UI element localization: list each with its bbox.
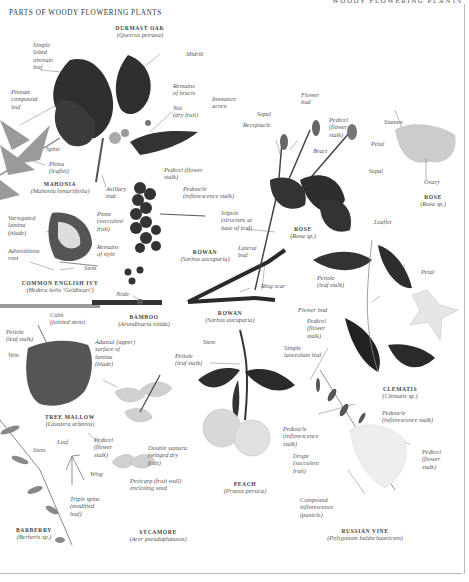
label-pedicel-sycamore: Pedicel (flower stalk): [94, 436, 113, 458]
specimen-russian-vine: RUSSIAN VINE (Polygonum baldschuanicum): [315, 528, 415, 541]
specimen-peach: PEACH (Prunus persica): [210, 481, 280, 494]
label-pinna: Pinna (leaflet): [49, 160, 69, 175]
specimen-scientific: (Sorbus aucuparia): [170, 255, 240, 262]
label-pinnate-compound-leaf: Pinnate compound leaf: [11, 88, 37, 110]
label-immature-acorn: Immature acorn: [212, 95, 236, 110]
label-pericarp: Pericarp (fruit wall) enclosing seed: [130, 477, 181, 492]
label-stem-peach: Stem: [203, 338, 215, 345]
specimen-scientific: (Mahonia lomariifolia): [20, 187, 100, 194]
label-leaf-barberry: Leaf: [57, 438, 68, 445]
specimen-bamboo: BAMBOO (Arundinaria nitida): [104, 314, 184, 327]
label-stamen: Stamen: [384, 118, 403, 125]
specimen-rowan-berries: ROWAN (Sorbus aucuparia): [170, 249, 240, 262]
label-spine: Spine: [46, 145, 60, 152]
label-nut: Nut (dry fruit): [173, 104, 198, 119]
label-adaxial-surface: Adaxial (upper) surface of lamina (blade…: [95, 338, 135, 368]
label-pedicel-vine: Pedicel (flower stalk): [422, 448, 441, 470]
label-remains-of-bracts: Remains of bracts: [173, 82, 195, 97]
label-compound-inflorescence: Compound inflorescence (panicle): [300, 496, 333, 518]
label-pedicel-rose: Pedicel (flower stalk): [329, 116, 348, 138]
specimen-scientific: (Lavatera arborea): [30, 420, 110, 427]
label-leaflet: Leaflet: [374, 218, 392, 225]
label-petal-rose: Petal: [371, 140, 384, 147]
specimen-scientific: (Arundinaria nitida): [104, 320, 184, 327]
specimen-scientific: (Acer pseudoplatanus): [113, 535, 203, 542]
label-axillary-bud: Axillary bud: [106, 185, 126, 200]
label-variegated-lamina: Variegated lamina (blade): [8, 214, 35, 236]
specimen-scientific: (Polygonum baldschuanicum): [315, 534, 415, 541]
label-stipule: Stipule (structure at base of leaf): [221, 209, 252, 231]
label-receptacle: Receptacle: [243, 121, 271, 128]
specimen-scientific: (Quercus petraea): [90, 31, 190, 38]
label-midrib: Midrib: [186, 50, 204, 57]
label-peduncle-vine: Peduncle (inflorescence stalk): [382, 409, 433, 424]
specimen-scientific: (Berberis sp.): [4, 533, 64, 540]
label-pedicel-clematis: Pedicel (flower stalk): [307, 317, 326, 339]
specimen-rose-stem: ROSE (Rosa sp.): [278, 226, 328, 239]
specimen-tree-mallow: TREE MALLOW (Lavatera arborea): [30, 414, 110, 427]
label-peduncle-rowan: Peduncle (inflorescence stalk): [183, 185, 234, 200]
label-pedicel-rowan: Pedicel (flower stalk): [164, 166, 203, 181]
label-node: Node: [116, 290, 129, 297]
label-drupe: Drupe (succulent fruit): [293, 452, 319, 474]
label-simple-lanceolate-leaf: Simple lanceolate leaf: [284, 344, 321, 359]
label-culm: Culm (jointed stem): [50, 311, 85, 326]
label-petiole-mallow: Petiole (leaf stalk): [6, 328, 33, 343]
label-bract: Bract: [313, 147, 327, 154]
specimen-scientific: (Rosa sp.): [278, 232, 328, 239]
label-pome: Pome (succulent fruit): [97, 210, 123, 232]
specimen-rose-flower: ROSE (Rosa sp.): [408, 194, 458, 207]
label-petal-clematis: Petal: [421, 268, 434, 275]
label-sepal-rose: Sepal: [257, 110, 271, 117]
label-adventitious-root: Adventitious root: [8, 247, 39, 262]
label-ovary: Ovary: [424, 178, 440, 185]
label-ring-scar: Ring scar: [261, 282, 285, 289]
label-peduncle-peach: Peduncle (inflorescence stalk): [283, 425, 318, 447]
label-flower-bud-clematis: Flower bud: [298, 306, 327, 313]
specimen-scientific: (Clematis sp.): [370, 392, 430, 399]
label-remains-of-style: Remains of style: [97, 243, 119, 258]
specimen-scientific: (Rosa sp.): [408, 200, 458, 207]
label-wing: Wing: [90, 470, 103, 477]
specimen-durmast-oak: DURMAST OAK (Quercus petraea): [90, 25, 190, 38]
label-stem-ivy: Stem: [84, 264, 96, 271]
label-stem-barberry: Stem: [33, 446, 45, 453]
label-lateral-bud: Lateral bud: [238, 244, 257, 259]
specimen-rowan-twig: ROWAN (Sorbus aucuparia): [190, 310, 270, 323]
specimen-scientific: (Hedera helix 'Goldheart'): [5, 286, 115, 293]
label-vein: Vein: [8, 351, 19, 358]
specimen-scientific: (Sorbus aucuparia): [190, 316, 270, 323]
label-petiole-peach: Petiole (leaf stalk): [175, 352, 202, 367]
label-petiole-clematis: Petiole (leaf stalk): [317, 274, 344, 289]
label-simple-lobed-leaf: Simple lobed obovate leaf: [33, 41, 53, 71]
specimen-sycamore: SYCAMORE (Acer pseudoplatanus): [113, 529, 203, 542]
label-flower-bud-rose: Flower bud: [301, 91, 319, 106]
label-double-samara: Double samara (winged dry fruit): [148, 444, 187, 466]
specimen-scientific: (Prunus persica): [210, 487, 280, 494]
specimen-ivy: COMMON ENGLISH IVY (Hedera helix 'Goldhe…: [5, 280, 115, 293]
label-sepal-rose-flower: Sepal: [369, 167, 383, 174]
specimen-clematis: CLEMATIS (Clematis sp.): [370, 386, 430, 399]
specimen-barberry: BARBERRY (Berberis sp.): [4, 527, 64, 540]
label-triple-spine: Triple spine (modified leaf): [70, 495, 100, 517]
specimen-mahonia: MAHONIA (Mahonia lomariifolia): [20, 181, 100, 194]
